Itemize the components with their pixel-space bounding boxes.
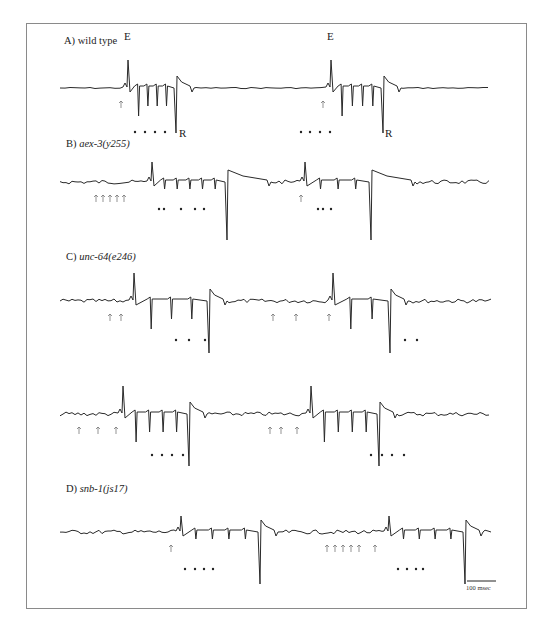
up-arrow-icon [119, 314, 123, 321]
relaxation-peak-label: R [179, 127, 186, 139]
dot-marker [194, 568, 196, 570]
up-arrow-icon [373, 545, 377, 552]
up-arrow-icon [94, 195, 98, 202]
up-arrow-icon [321, 101, 325, 108]
dot-marker [180, 208, 182, 210]
trace-line [60, 273, 491, 353]
dot-marker [322, 208, 324, 210]
up-arrow-icon [357, 545, 361, 552]
dot-marker [154, 131, 156, 133]
dot-marker [397, 568, 399, 570]
up-arrow-icon [349, 545, 353, 552]
up-arrow-icon [299, 195, 303, 202]
dot-marker [403, 454, 405, 456]
up-arrow-icon [333, 545, 337, 552]
dot-marker [134, 131, 136, 133]
up-arrow-icon [122, 195, 126, 202]
trace-line [60, 516, 491, 584]
dot-marker [203, 208, 205, 210]
dot-marker [171, 454, 173, 456]
dot-marker [330, 208, 332, 210]
up-arrow-icon [271, 314, 275, 321]
dot-marker [391, 454, 393, 456]
up-arrow-icon [268, 427, 272, 434]
up-arrow-icon [108, 195, 112, 202]
panel-label-d: D) snb-1(js17) [66, 483, 128, 494]
dot-marker [406, 568, 408, 570]
dot-marker [188, 339, 190, 341]
trace-line [60, 60, 488, 133]
scale-bar-label: 100 msec [466, 584, 491, 591]
dot-marker [175, 339, 177, 341]
up-arrow-icon [325, 545, 329, 552]
dot-marker [163, 208, 165, 210]
up-arrow-icon [119, 101, 123, 108]
up-arrow-icon [295, 427, 299, 434]
panel-label-b: B) aex-3(y255) [66, 138, 130, 149]
excitation-peak-label: E [327, 30, 334, 42]
up-arrow-icon [169, 545, 173, 552]
dot-marker [161, 454, 163, 456]
dot-marker [204, 339, 206, 341]
excitation-peak-label: E [124, 30, 131, 42]
up-arrow-icon [77, 427, 81, 434]
dot-marker [381, 454, 383, 456]
up-arrow-icon [108, 314, 112, 321]
dot-marker [300, 131, 302, 133]
relaxation-peak-label: R [385, 127, 392, 139]
dot-marker [317, 208, 319, 210]
inter-spike-dots [134, 131, 424, 570]
epg-traces [0, 0, 550, 636]
dot-marker [151, 454, 153, 456]
panel-label-a: A) wild type [64, 35, 117, 46]
dot-marker [158, 208, 160, 210]
up-arrow-icon [327, 314, 331, 321]
dot-marker [164, 131, 166, 133]
panel-label-c: C) unc-64(e246) [66, 251, 136, 262]
dot-marker [370, 454, 372, 456]
dot-marker [415, 568, 417, 570]
dot-marker [182, 454, 184, 456]
dot-marker [194, 208, 196, 210]
dot-marker [416, 339, 418, 341]
dot-marker [329, 131, 331, 133]
up-arrow-icon [279, 427, 283, 434]
dot-marker [212, 568, 214, 570]
up-arrow-icon [294, 314, 298, 321]
dot-marker [404, 339, 406, 341]
dot-marker [319, 131, 321, 133]
dot-marker [144, 131, 146, 133]
dot-marker [203, 568, 205, 570]
up-arrow-icon [115, 195, 119, 202]
dot-marker [184, 568, 186, 570]
dot-marker [309, 131, 311, 133]
trace-line [60, 386, 489, 466]
dot-marker [422, 568, 424, 570]
up-arrow-icon [101, 195, 105, 202]
up-arrow-icon [114, 427, 118, 434]
up-arrow-icon [341, 545, 345, 552]
up-arrow-icon [96, 427, 100, 434]
